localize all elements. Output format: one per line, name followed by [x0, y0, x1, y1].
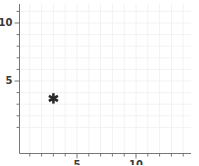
data-point-marker [49, 93, 58, 103]
y-tick-label-10: 10 [0, 18, 13, 28]
data-markers [0, 0, 199, 165]
x-tick-label-10: 10 [129, 160, 143, 166]
scatter-plot-figure: 105510 [0, 0, 199, 165]
plot-area: 105510 [0, 0, 199, 165]
y-tick-label-5: 5 [6, 76, 13, 86]
x-tick-label-5: 5 [74, 160, 81, 166]
